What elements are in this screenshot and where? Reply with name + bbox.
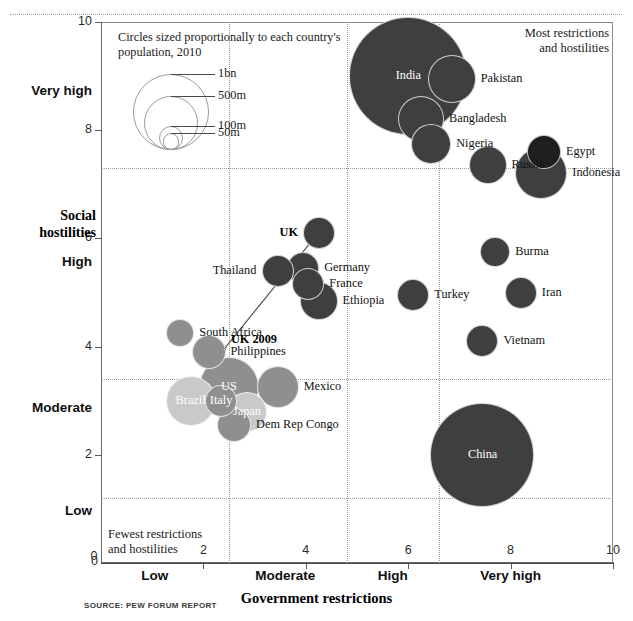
horizontal-gridline — [101, 498, 613, 499]
y-band-label: Very high — [6, 83, 92, 98]
y-tick — [95, 238, 102, 239]
size-legend-caption: Circles sized proportionally to each cou… — [118, 30, 368, 61]
bubble-label-thailand: Thailand — [213, 263, 257, 278]
y-tick-label: 8 — [66, 122, 92, 136]
bubble-burma[interactable] — [480, 237, 510, 267]
y-tick — [95, 22, 102, 23]
x-tick-label: 4 — [291, 543, 321, 557]
y-tick-label: 2 — [66, 447, 92, 461]
bubble-label-turkey: Turkey — [434, 287, 469, 302]
bubble-label-china: China — [468, 447, 497, 462]
x-band-label: Very high — [456, 568, 566, 583]
fewest-restrictions-note: Fewest restrictionsand hostilities — [108, 527, 268, 557]
legend-label-1bn: 1bn — [218, 66, 236, 81]
y-tick-label: 10 — [66, 14, 92, 28]
y-tick — [95, 455, 102, 456]
bubble-label-iran: Iran — [542, 285, 562, 300]
y-band-label: High — [6, 254, 92, 269]
y-axis-title: Socialhostilities — [4, 208, 96, 241]
x-band-label: Low — [100, 568, 210, 583]
bubble-nigeria[interactable] — [411, 124, 451, 164]
bubble-label-burma: Burma — [515, 244, 548, 259]
legend-leader-line-1bn — [171, 74, 215, 75]
uk-2009-label: UK 2009 — [231, 332, 277, 347]
bubble-label-pakistan: Pakistan — [481, 71, 523, 86]
y-axis-line — [101, 22, 102, 563]
bubble-label-egypt: Egypt — [566, 144, 595, 159]
bubble-label-dem-rep-congo: Dem Rep Congo — [256, 417, 339, 432]
bubble-label-vietnam: Vietnam — [503, 333, 545, 348]
bubble-label-brazil: Brazil — [176, 393, 206, 408]
bubble-russia[interactable] — [469, 146, 507, 184]
bubble-label-uk: UK — [280, 225, 298, 240]
legend-label-50m: 50m — [218, 125, 240, 140]
y-band-label: Low — [6, 503, 92, 518]
bubble-pakistan[interactable] — [428, 55, 476, 103]
bubble-label-bangladesh: Bangladesh — [449, 111, 506, 126]
x-band-label: High — [338, 568, 448, 583]
x-tick-label: 6 — [393, 543, 423, 557]
chart-root: 02468100246810 LowModerateHighVery highL… — [0, 0, 633, 621]
bubble-label-mexico: Mexico — [304, 379, 342, 394]
x-tick-label: 8 — [496, 543, 526, 557]
x-tick-label: 10 — [598, 543, 628, 557]
source-note: SOURCE: PEW FORUM REPORT — [84, 601, 217, 610]
bubble-iran[interactable] — [505, 277, 537, 309]
legend-leader-line-50m — [171, 133, 215, 134]
bubble-label-ethiopia: Ethiopia — [343, 293, 385, 308]
x-tick — [613, 562, 614, 569]
y-band-label: Moderate — [6, 400, 92, 415]
bubble-label-nigeria: Nigeria — [456, 136, 493, 151]
legend-leader-line-100m — [171, 126, 215, 127]
y-tick-label: 0 — [72, 554, 98, 568]
most-restrictions-note: Most restrictionsand hostilities — [439, 26, 609, 56]
bubble-label-india: India — [396, 68, 421, 83]
y-tick — [95, 347, 102, 348]
bubble-label-italy: Italy — [210, 393, 233, 408]
bubble-label-france: France — [329, 276, 362, 291]
y-tick — [95, 130, 102, 131]
x-axis-line — [101, 563, 613, 564]
x-band-label: Moderate — [230, 568, 340, 583]
top-dotted-rule — [10, 14, 622, 15]
legend-label-500m: 500m — [218, 88, 246, 103]
y-tick-label: 4 — [66, 339, 92, 353]
legend-leader-line-500m — [171, 96, 215, 97]
bubble-uk[interactable] — [303, 217, 335, 249]
bubble-label-indonesia: Indonesia — [572, 165, 620, 180]
bubble-label-russia: Russia — [512, 157, 545, 172]
bubble-philippines[interactable] — [192, 335, 226, 369]
bubble-thailand[interactable] — [262, 255, 294, 287]
bubble-label-germany: Germany — [324, 260, 370, 275]
